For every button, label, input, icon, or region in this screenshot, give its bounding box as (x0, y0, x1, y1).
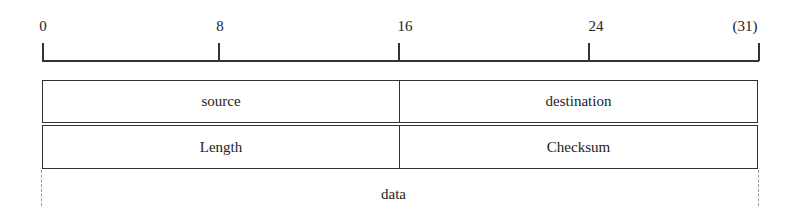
tick-label-0: 0 (39, 18, 47, 35)
tick-31 (758, 43, 760, 61)
tick-label-16: 16 (398, 18, 413, 35)
ruler-baseline (42, 60, 759, 62)
field-length: Length (43, 126, 400, 168)
tick-label-24: 24 (589, 18, 604, 35)
data-right-edge (758, 170, 759, 206)
header-row-2: Length Checksum (42, 125, 758, 169)
tick-label-8: 8 (216, 18, 224, 35)
tick-24 (588, 43, 590, 61)
field-data: data (381, 186, 406, 203)
tick-label-31: (31) (733, 18, 758, 35)
tick-0 (42, 43, 44, 61)
field-destination: destination (400, 81, 757, 122)
tick-16 (398, 43, 400, 61)
field-source: source (43, 81, 400, 122)
tick-8 (218, 43, 220, 61)
data-left-edge (41, 170, 42, 206)
field-checksum: Checksum (400, 126, 757, 168)
header-row-1: source destination (42, 80, 758, 123)
